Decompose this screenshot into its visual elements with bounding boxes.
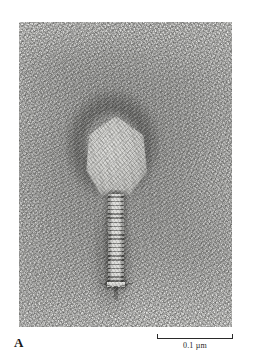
electron-micrograph-image (19, 22, 232, 327)
scale-bar: 0.1 µm (157, 334, 233, 356)
plate-vignette (19, 22, 232, 327)
figure-panel: A 0.1 µm (0, 0, 255, 358)
scale-bar-label: 0.1 µm (157, 341, 233, 350)
panel-label: A (14, 336, 23, 349)
scale-bar-line (157, 334, 233, 339)
